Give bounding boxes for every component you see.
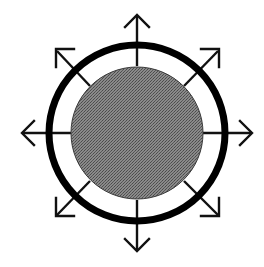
radial-expansion-diagram [0,0,264,267]
diagram-canvas: Radial expansion symbol [0,0,264,267]
core-circle [71,67,203,199]
